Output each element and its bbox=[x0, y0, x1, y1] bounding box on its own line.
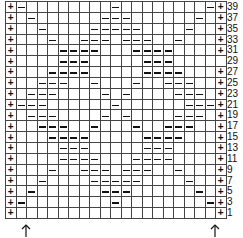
row-label: 5 bbox=[227, 185, 238, 196]
empty-cell bbox=[69, 186, 80, 197]
empty-cell bbox=[90, 208, 101, 219]
chart-row: ++ bbox=[6, 164, 227, 175]
empty-cell bbox=[27, 34, 38, 45]
purl-symbol bbox=[69, 67, 80, 78]
purl-symbol bbox=[27, 88, 38, 99]
purl-symbol bbox=[132, 164, 143, 175]
empty-cell bbox=[205, 56, 216, 67]
empty-cell bbox=[205, 77, 216, 88]
row-label: 21 bbox=[227, 99, 238, 110]
empty-cell bbox=[16, 45, 27, 56]
empty-cell bbox=[121, 132, 132, 143]
empty-cell bbox=[48, 175, 59, 186]
purl-symbol bbox=[79, 132, 90, 143]
empty-cell bbox=[100, 142, 111, 153]
empty-cell bbox=[132, 132, 143, 143]
empty-cell bbox=[205, 88, 216, 99]
purl-symbol bbox=[37, 88, 48, 99]
empty-cell bbox=[174, 197, 185, 208]
empty-cell bbox=[37, 164, 48, 175]
empty-cell bbox=[48, 2, 59, 13]
plus-symbol: + bbox=[6, 2, 17, 13]
empty-cell bbox=[16, 121, 27, 132]
chart-row: + bbox=[6, 56, 227, 67]
plus-symbol: + bbox=[6, 56, 17, 67]
empty-cell bbox=[100, 56, 111, 67]
empty-cell bbox=[16, 23, 27, 34]
empty-cell bbox=[90, 12, 101, 23]
knitting-chart: +++++++++++++++++++++++++++++++++++++++ bbox=[5, 1, 227, 219]
empty-cell bbox=[111, 88, 122, 99]
empty-cell bbox=[142, 99, 153, 110]
empty-cell bbox=[37, 67, 48, 78]
plus-symbol: + bbox=[6, 132, 17, 143]
purl-symbol bbox=[142, 45, 153, 56]
empty-cell bbox=[69, 77, 80, 88]
purl-symbol bbox=[153, 56, 164, 67]
empty-cell bbox=[195, 2, 206, 13]
purl-symbol bbox=[195, 99, 206, 110]
row-label: 23 bbox=[227, 88, 238, 99]
purl-symbol bbox=[163, 45, 174, 56]
purl-symbol bbox=[174, 164, 185, 175]
chart-row: ++ bbox=[6, 142, 227, 153]
purl-symbol bbox=[174, 67, 185, 78]
empty-cell bbox=[58, 197, 69, 208]
empty-cell bbox=[69, 197, 80, 208]
empty-cell bbox=[100, 132, 111, 143]
plus-symbol: + bbox=[216, 99, 227, 110]
row-label: 1 bbox=[227, 207, 238, 218]
empty-cell bbox=[174, 45, 185, 56]
empty-cell bbox=[27, 132, 38, 143]
empty-cell bbox=[37, 186, 48, 197]
purl-symbol bbox=[153, 45, 164, 56]
purl-symbol bbox=[174, 121, 185, 132]
purl-symbol bbox=[27, 186, 38, 197]
empty-cell bbox=[132, 99, 143, 110]
purl-symbol bbox=[48, 67, 59, 78]
purl-symbol bbox=[205, 197, 216, 208]
empty-cell bbox=[58, 2, 69, 13]
empty-cell bbox=[184, 142, 195, 153]
plus-symbol: + bbox=[6, 208, 17, 219]
chart-row: ++ bbox=[6, 121, 227, 132]
empty-cell bbox=[69, 208, 80, 219]
empty-cell bbox=[142, 186, 153, 197]
purl-symbol bbox=[69, 153, 80, 164]
empty-cell bbox=[16, 175, 27, 186]
empty-cell bbox=[174, 208, 185, 219]
empty-cell bbox=[58, 12, 69, 23]
purl-symbol bbox=[184, 121, 195, 132]
empty-cell bbox=[121, 77, 132, 88]
plus-symbol: + bbox=[6, 99, 17, 110]
purl-symbol bbox=[16, 2, 27, 13]
empty-cell bbox=[37, 45, 48, 56]
empty-cell bbox=[142, 121, 153, 132]
purl-symbol bbox=[27, 110, 38, 121]
purl-symbol bbox=[163, 67, 174, 78]
purl-symbol bbox=[195, 186, 206, 197]
empty-cell bbox=[48, 142, 59, 153]
chart-row: ++ bbox=[6, 132, 227, 143]
empty-cell bbox=[132, 142, 143, 153]
empty-cell bbox=[195, 153, 206, 164]
empty-cell bbox=[163, 99, 174, 110]
plus-symbol: + bbox=[216, 23, 227, 34]
empty-cell bbox=[79, 110, 90, 121]
purl-symbol bbox=[48, 121, 59, 132]
purl-symbol bbox=[153, 132, 164, 143]
empty-cell bbox=[90, 132, 101, 143]
purl-symbol bbox=[174, 88, 185, 99]
purl-symbol bbox=[48, 88, 59, 99]
plus-symbol: + bbox=[216, 2, 227, 13]
empty-cell bbox=[153, 88, 164, 99]
empty-cell bbox=[205, 132, 216, 143]
empty-cell bbox=[37, 153, 48, 164]
empty-cell bbox=[27, 197, 38, 208]
empty-cell bbox=[16, 208, 27, 219]
purl-symbol bbox=[142, 56, 153, 67]
empty-cell bbox=[163, 208, 174, 219]
empty-cell bbox=[195, 142, 206, 153]
purl-symbol bbox=[100, 175, 111, 186]
empty-cell bbox=[111, 56, 122, 67]
